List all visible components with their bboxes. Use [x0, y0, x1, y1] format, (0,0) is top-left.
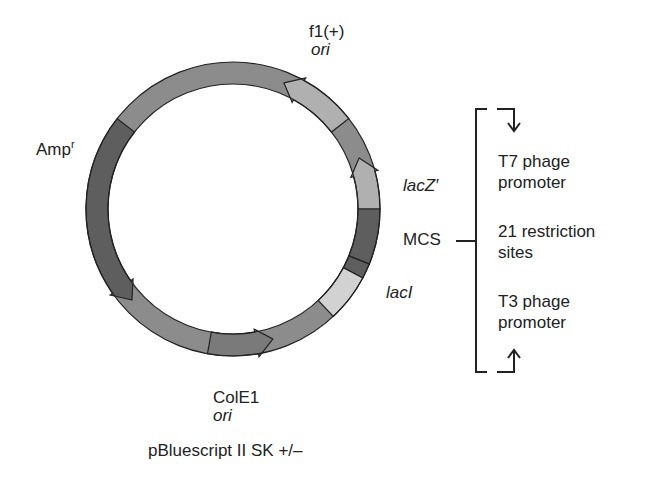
page-title: pBluescript II SK +/–: [148, 441, 303, 461]
label-t3-promoter: T3 phage: [498, 292, 570, 312]
label-amp-sup: r: [71, 138, 75, 150]
label-t3-promoter-2: promoter: [498, 313, 566, 333]
plasmid-ring: [86, 62, 380, 357]
label-f1-ori: ori: [311, 40, 330, 60]
label-t7-promoter-2: promoter: [498, 173, 566, 193]
label-cole1: ColE1: [213, 388, 259, 408]
label-amp-main: Amp: [36, 140, 71, 159]
label-cole1-ori: ori: [213, 406, 232, 426]
feature-mcs: [349, 209, 380, 264]
feature-amp-r: [86, 119, 135, 301]
feature-f1-ori: [284, 78, 349, 132]
ring-inner-edge: [108, 84, 358, 334]
label-mcs: MCS: [403, 230, 441, 250]
label-laci: lacI: [386, 283, 412, 303]
bracket-line: [476, 109, 487, 372]
label-restriction-sites: 21 restriction: [498, 222, 595, 242]
label-t7-promoter: T7 phage: [498, 152, 570, 172]
label-restriction-sites-2: sites: [498, 243, 533, 263]
label-amp: Ampr: [36, 140, 75, 160]
label-lacz: lacZ′: [403, 176, 438, 196]
label-f1: f1(+): [309, 22, 344, 42]
